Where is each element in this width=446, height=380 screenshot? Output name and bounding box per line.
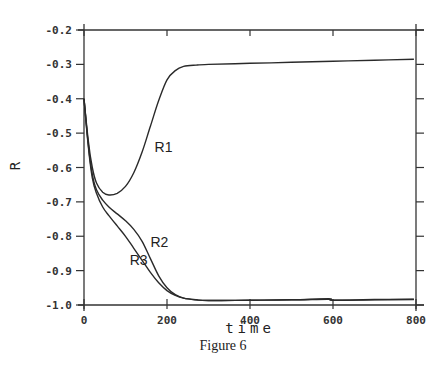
y-tick-label: -0.3: [46, 58, 73, 71]
series-line-r2: [84, 99, 414, 301]
x-tick-label: 0: [81, 314, 88, 327]
y-tick-label: -0.9: [46, 265, 73, 278]
x-tick-label: 600: [323, 314, 343, 327]
series-labels: R1R2R3: [130, 139, 173, 268]
y-tick-label: -0.2: [46, 24, 73, 37]
y-tick-label: -0.6: [46, 162, 73, 175]
y-axis-label: R: [7, 161, 23, 170]
series-label-r1: R1: [155, 139, 173, 155]
series-label-r3: R3: [130, 252, 148, 268]
x-tick-label: 800: [406, 314, 426, 327]
figure-caption: Figure 6: [0, 338, 446, 354]
y-tick-label: -0.8: [46, 230, 73, 243]
y-tick-label: -1.0: [46, 299, 73, 312]
x-axis-label: time: [225, 320, 275, 336]
x-tick-label: 200: [157, 314, 177, 327]
y-tick-label: -0.4: [46, 93, 73, 106]
y-tick-label: -0.5: [46, 127, 73, 140]
series-line-r1: [84, 59, 414, 195]
x-axis: 0200400600800: [81, 30, 426, 327]
line-chart: -0.2-0.3-0.4-0.5-0.6-0.7-0.8-0.9-1.0 020…: [0, 0, 446, 340]
series-line-r3: [84, 99, 414, 301]
y-axis: -0.2-0.3-0.4-0.5-0.6-0.7-0.8-0.9-1.0: [46, 24, 425, 312]
series-label-r2: R2: [150, 234, 168, 250]
y-tick-label: -0.7: [46, 196, 73, 209]
